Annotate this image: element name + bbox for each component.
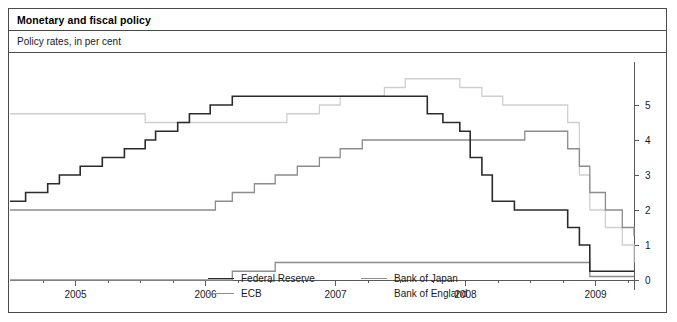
legend-swatch-icon — [208, 293, 234, 294]
legend-item-label: Bank of Japan — [394, 273, 458, 284]
y-tick-label: 3 — [645, 170, 651, 181]
panel-subtitle-label: Policy rates, in per cent — [17, 36, 121, 47]
chart-legend: Federal ReserveECB Bank of JapanBank of … — [9, 271, 666, 311]
legend-item-label: Bank of England — [394, 288, 467, 299]
legend-column-left: Federal ReserveECB — [208, 271, 315, 301]
legend-item-bank-of-england[interactable]: Bank of England — [361, 286, 467, 301]
legend-item-federal-reserve[interactable]: Federal Reserve — [208, 271, 315, 286]
y-tick-label: 4 — [645, 135, 651, 146]
y-tick-label: 5 — [645, 100, 651, 111]
panel-title: Monetary and fiscal policy — [9, 9, 666, 31]
page-title: Monetary and fiscal policy — [17, 14, 151, 26]
series-line-bank-of-england — [10, 79, 634, 263]
series-line-ecb — [10, 131, 634, 236]
y-tick-label: 1 — [645, 240, 651, 251]
legend-item-ecb[interactable]: ECB — [208, 286, 315, 301]
legend-swatch-icon — [361, 278, 387, 279]
legend-item-label: Federal Reserve — [241, 273, 315, 284]
legend-swatch-icon — [208, 278, 234, 279]
legend-column-right: Bank of JapanBank of England — [361, 271, 467, 301]
screenshot-root: Monetary and fiscal policy Policy rates,… — [0, 0, 677, 322]
series-line-federal-reserve — [10, 96, 634, 271]
panel-subtitle: Policy rates, in per cent — [9, 31, 666, 53]
legend-item-label: ECB — [241, 288, 262, 299]
legend-item-bank-of-japan[interactable]: Bank of Japan — [361, 271, 467, 286]
y-tick-label: 2 — [645, 205, 651, 216]
legend-swatch-icon — [361, 293, 387, 294]
